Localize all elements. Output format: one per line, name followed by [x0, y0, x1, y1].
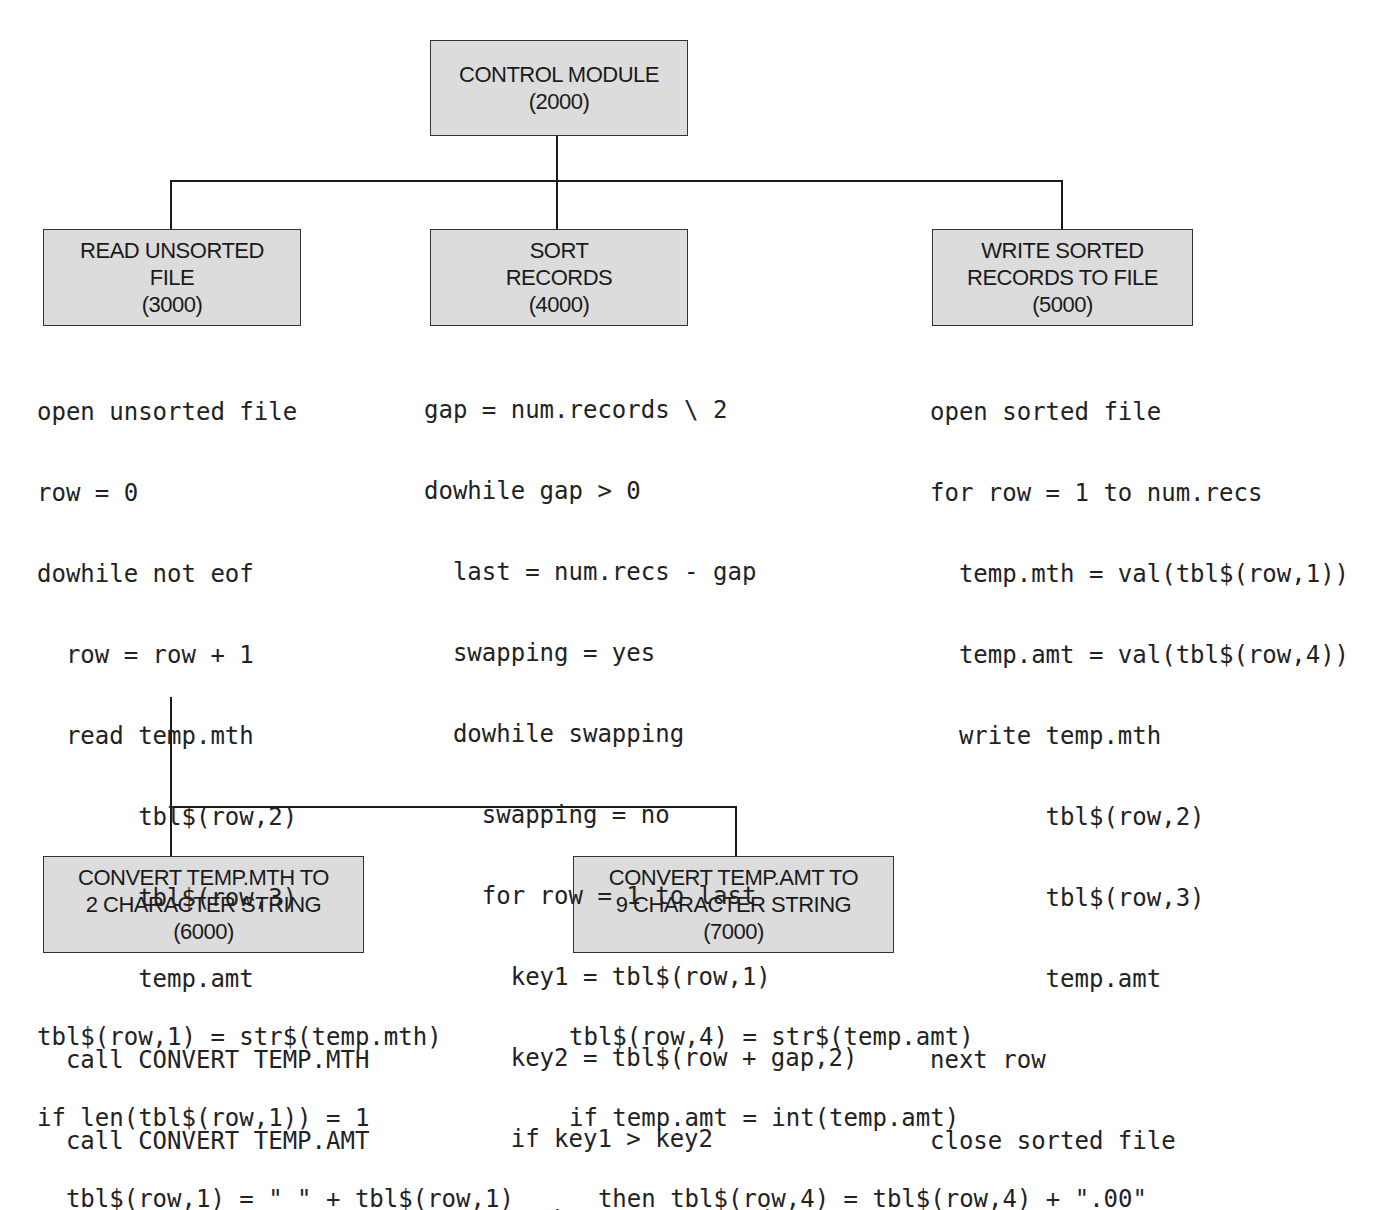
code-line: for row = 1 to num.recs [930, 480, 1349, 507]
code-line: open unsorted file [37, 399, 369, 426]
control-module-box: CONTROL MODULE (2000) [430, 40, 688, 136]
write-module-number: (5000) [1032, 291, 1093, 318]
control-module-title: CONTROL MODULE [459, 61, 659, 88]
write-module-title-line2: RECORDS TO FILE [967, 264, 1158, 291]
code-line: tbl$(row,2) [37, 804, 369, 831]
write-module-title-line1: WRITE SORTED [981, 237, 1143, 264]
code-line: tbl$(row,2) [930, 804, 1349, 831]
code-line: tbl$(row,3) [37, 885, 369, 912]
code-line: for row = 1 to last [424, 883, 857, 910]
code-line: if temp.amt = int(temp.amt) [569, 1105, 1205, 1132]
code-line: tbl$(row,4) = str$(temp.amt) [569, 1024, 1205, 1051]
sort-records-box: SORT RECORDS (4000) [430, 229, 688, 326]
connector-to-sort [556, 180, 558, 230]
code-line: then tbl$(row,4) = tbl$(row,4) + ".00" [569, 1186, 1205, 1210]
code-line: tbl$(row,1) = str$(temp.mth) [37, 1024, 514, 1051]
code-line: open sorted file [930, 399, 1349, 426]
connector-top-horizontal [170, 180, 1063, 182]
read-module-title-line1: READ UNSORTED [80, 237, 264, 264]
code-line: dowhile gap > 0 [424, 478, 857, 505]
connector-to-read [170, 180, 172, 230]
code-line: swapping = no [424, 802, 857, 829]
code-line: dowhile swapping [424, 721, 857, 748]
code-line: dowhile not eof [37, 561, 369, 588]
sort-module-number: (4000) [529, 291, 590, 318]
code-line: write temp.mth [930, 723, 1349, 750]
sort-module-title-line1: SORT [530, 237, 589, 264]
code-line: read temp.mth [37, 723, 369, 750]
code-line: if len(tbl$(row,1)) = 1 [37, 1105, 514, 1132]
read-module-title-line2: FILE [150, 264, 194, 291]
code-line: row = row + 1 [37, 642, 369, 669]
code-line: tbl$(row,3) [930, 885, 1349, 912]
write-sorted-records-box: WRITE SORTED RECORDS TO FILE (5000) [932, 229, 1193, 326]
code-line: temp.amt = val(tbl$(row,4)) [930, 642, 1349, 669]
convert-amt-pseudocode: tbl$(row,4) = str$(temp.amt) if temp.amt… [569, 970, 1205, 1210]
code-line: last = num.recs - gap [424, 559, 857, 586]
sort-module-title-line2: RECORDS [506, 264, 613, 291]
read-unsorted-file-box: READ UNSORTED FILE (3000) [43, 229, 301, 326]
code-line: row = 0 [37, 480, 369, 507]
connector-to-write [1061, 180, 1063, 230]
code-line: gap = num.records \ 2 [424, 397, 857, 424]
read-module-number: (3000) [142, 291, 203, 318]
control-module-number: (2000) [529, 88, 590, 115]
code-line: swapping = yes [424, 640, 857, 667]
code-line: temp.mth = val(tbl$(row,1)) [930, 561, 1349, 588]
connector-control-down [556, 135, 558, 182]
code-line: tbl$(row,1) = " " + tbl$(row,1) [37, 1186, 514, 1210]
convert-mth-pseudocode: tbl$(row,1) = str$(temp.mth) if len(tbl$… [37, 970, 514, 1210]
